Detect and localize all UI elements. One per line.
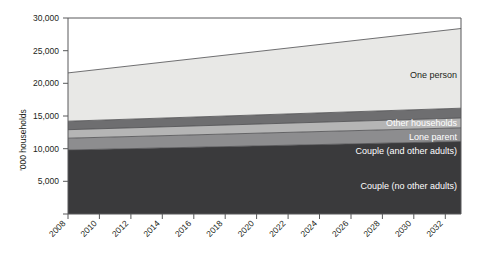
y-axis-tick-labels: 30,000 25,000 20,000 15,000 10,000 5,000 (33, 13, 59, 186)
y-tick-label-10000: 10,000 (33, 144, 59, 154)
x-tick-label-2020: 2020 (236, 218, 257, 239)
y-tick-label-15000: 15,000 (33, 111, 59, 121)
x-tick-label-2018: 2018 (204, 218, 225, 239)
y-tick-label-5000: 5,000 (38, 176, 60, 186)
y-axis-ticks (63, 18, 68, 214)
x-tick-label-2030: 2030 (393, 218, 414, 239)
band-label-lone-parent: Lone parent (409, 132, 458, 142)
x-tick-label-2026: 2026 (330, 218, 351, 239)
x-axis-ticks (68, 214, 445, 219)
y-tick-label-20000: 20,000 (33, 78, 59, 88)
area-one-person (68, 29, 461, 122)
y-tick-label-30000: 30,000 (33, 13, 59, 23)
y-axis-title: '000 households (18, 109, 28, 171)
band-label-couple-no-other-adults: Couple (no other adults) (360, 181, 457, 191)
x-tick-label-2014: 2014 (141, 218, 162, 239)
y-tick-label-25000: 25,000 (33, 46, 59, 56)
x-tick-label-2016: 2016 (173, 218, 194, 239)
x-tick-label-2012: 2012 (110, 218, 131, 239)
band-label-other-households: Other households (386, 118, 458, 128)
chart-canvas: 30,000 25,000 20,000 15,000 10,000 5,000… (0, 0, 485, 276)
x-tick-label-2008: 2008 (47, 218, 68, 239)
stacked-area-chart: 30,000 25,000 20,000 15,000 10,000 5,000… (0, 0, 485, 276)
x-tick-label-2022: 2022 (267, 218, 288, 239)
x-tick-label-2010: 2010 (78, 218, 99, 239)
x-axis-tick-labels: 2008 2010 2012 2014 2016 2018 2020 2022 … (47, 218, 445, 239)
x-tick-label-2024: 2024 (298, 218, 319, 239)
band-label-one-person: One person (410, 70, 457, 80)
x-tick-label-2028: 2028 (361, 218, 382, 239)
band-label-couple-and-other-adults: Couple (and other adults) (355, 146, 457, 156)
x-tick-label-2032: 2032 (424, 218, 445, 239)
